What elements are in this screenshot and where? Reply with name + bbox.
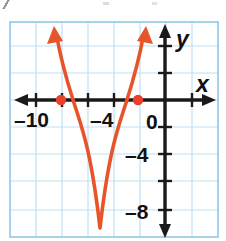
parabola-graph: –10 –4 0 –4 –8 y x: [0, 0, 226, 241]
x-tick-label-neg10: –10: [14, 108, 49, 131]
y-tick-label-neg4: –4: [125, 143, 149, 166]
y-axis-label: y: [175, 26, 190, 52]
x-axis-label: x: [194, 71, 210, 97]
x-tick-label-neg4: –4: [90, 108, 114, 131]
root-point-left: [56, 95, 66, 105]
y-tick-label-neg8: –8: [125, 200, 149, 223]
figure-canvas: –10 –4 0 –4 –8 y x: [0, 0, 226, 241]
root-point-right: [133, 95, 143, 105]
x-tick-label-zero: 0: [146, 110, 158, 133]
